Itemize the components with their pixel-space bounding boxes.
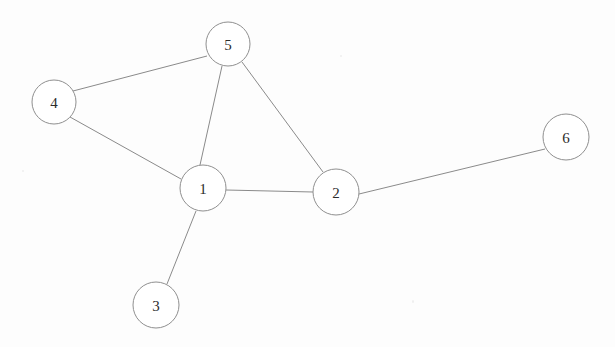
graph-node-3[interactable]: 3 [133,282,179,328]
graph-edge-1-2 [226,190,313,192]
node-label-1: 1 [199,181,207,197]
graph-diagram-canvas: 123456 [0,0,615,347]
graph-edge-5-2 [242,62,323,172]
graph-svg: 123456 [0,0,615,347]
graph-node-1[interactable]: 1 [180,165,226,211]
nodes-group: 123456 [32,22,589,328]
graph-node-2[interactable]: 2 [313,169,359,215]
graph-edge-2-6 [359,149,545,194]
graph-node-4[interactable]: 4 [32,80,76,124]
graph-edge-1-3 [167,211,196,284]
node-label-6: 6 [562,130,570,146]
graph-node-6[interactable]: 6 [543,114,589,160]
edges-group [70,56,545,284]
node-label-4: 4 [50,95,58,111]
node-label-3: 3 [152,298,160,314]
graph-edge-5-1 [200,66,222,165]
graph-node-5[interactable]: 5 [206,22,250,66]
graph-edge-4-5 [73,56,207,91]
node-label-2: 2 [332,185,340,201]
node-label-5: 5 [224,37,232,53]
graph-edge-4-1 [70,117,181,179]
